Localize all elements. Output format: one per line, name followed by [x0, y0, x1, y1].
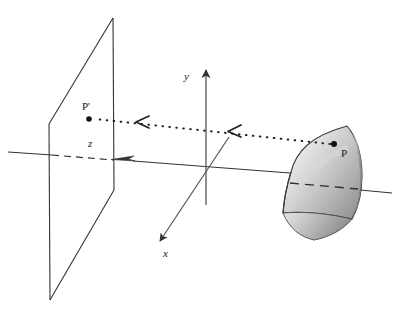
projector-arrow-marker-2 [136, 116, 149, 128]
x-axis-label: x [162, 247, 168, 259]
z-axis-arrowhead [111, 156, 135, 161]
z-axis-left-segment [8, 152, 52, 155]
surface-bottom-skirt [283, 212, 352, 240]
z-axis-dashed-segment [52, 155, 113, 160]
point-P-prime-marker [86, 116, 92, 122]
perspective-projection-diagram: P P' y x z [0, 0, 396, 317]
plane-edge-right [113, 18, 114, 190]
plane-edge-bottom-right [50, 190, 114, 300]
point-P-prime-label: P' [82, 100, 90, 112]
z-axis-far-right-segment [360, 190, 392, 193]
projector-line-group [95, 116, 330, 144]
plane-edge-left [49, 124, 50, 300]
z-axis-label: z [87, 137, 93, 149]
y-axis-label: y [183, 70, 189, 82]
diagram-canvas: P P' y x z [0, 0, 396, 317]
point-P-label: P [341, 147, 347, 159]
x-axis-line [160, 137, 229, 241]
point-P-marker [331, 141, 337, 147]
z-axis-group [8, 152, 290, 173]
plane-edge-top-left [49, 18, 113, 124]
x-axis-group [160, 137, 229, 241]
projector-dotted-line [95, 119, 330, 144]
point-P-prime-group: P' [82, 100, 92, 122]
